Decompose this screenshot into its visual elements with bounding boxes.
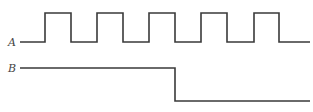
signal-a-waveform: [20, 13, 310, 42]
timing-diagram: A B: [0, 0, 313, 112]
signal-label-b: B: [7, 62, 16, 75]
signal-b-waveform: [20, 68, 310, 101]
signal-label-a: A: [7, 36, 16, 49]
